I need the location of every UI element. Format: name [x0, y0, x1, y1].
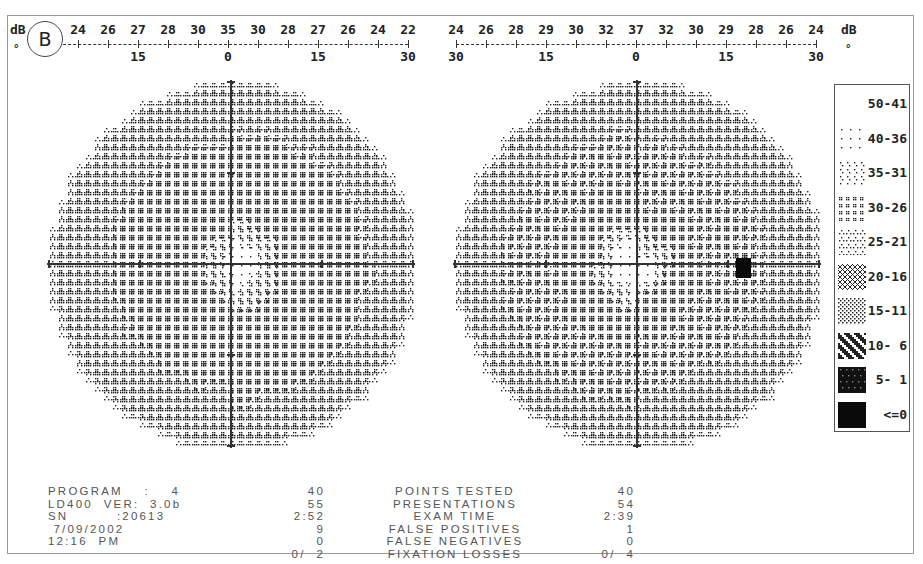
- legend-item: 5- 1: [835, 363, 911, 397]
- left-db-tick-label: 24: [370, 22, 386, 37]
- right-scale-tick: [576, 40, 577, 48]
- right-degree-tick-label: 15: [538, 49, 554, 64]
- left-scale-tick: [198, 40, 199, 48]
- left-db-unit: dB: [10, 22, 26, 37]
- right-visual-field-plot: [437, 64, 837, 464]
- right-db-tick-label: 24: [448, 22, 464, 37]
- right-db-tick-label: 37: [628, 22, 644, 37]
- legend-swatch-near-black: [838, 367, 866, 393]
- right-db-tick-label: 26: [478, 22, 494, 37]
- legend-label: 5- 1: [876, 372, 907, 387]
- left-db-tick-label: 24: [70, 22, 86, 37]
- left-db-tick-label: 27: [310, 22, 326, 37]
- legend-item: 20-16: [835, 260, 911, 294]
- stats-line: PROGRAM : 4: [48, 485, 181, 498]
- legend-swatch-double-dots: [838, 195, 866, 221]
- right-scale-tick: [696, 40, 697, 48]
- legend-label: 20-16: [868, 269, 907, 284]
- legend-swatch-blank: [838, 91, 866, 117]
- legend-item: 15-11: [835, 294, 911, 328]
- right-scale-tick: [816, 40, 817, 48]
- left-db-tick-label: 35: [220, 22, 236, 37]
- right-db-tick-label: 30: [688, 22, 704, 37]
- stats-line: 0: [250, 535, 325, 548]
- left-db-tick-label: 28: [280, 22, 296, 37]
- left-degree-tick-label: 30: [400, 49, 416, 64]
- left-scale-tick: [78, 40, 79, 48]
- legend-label: 30-26: [868, 200, 907, 215]
- stats-line: 2:52: [250, 510, 325, 523]
- left-db-tick-label: 28: [160, 22, 176, 37]
- left-db-tick-label: 27: [130, 22, 146, 37]
- left-scale-tick: [348, 40, 349, 48]
- stats-line: EXAM TIME: [340, 510, 570, 523]
- right-scale-tick: [666, 40, 667, 48]
- stats-line: 0/ 4: [560, 548, 635, 561]
- left-degree-tick-label: 15: [310, 49, 326, 64]
- legend-label: 15-11: [868, 303, 907, 318]
- legend-label: 10- 6: [868, 338, 907, 353]
- right-db-tick-label: 26: [778, 22, 794, 37]
- legend-label: 25-21: [868, 234, 907, 249]
- legend-swatch-light-dots: [838, 160, 866, 186]
- right-scale-tick: [546, 40, 547, 48]
- stats-line: FIXATION LOSSES: [340, 548, 570, 561]
- right-degree-tick-label: 15: [718, 49, 734, 64]
- right-degree-unit: °: [845, 42, 852, 55]
- right-db-tick-label: 29: [718, 22, 734, 37]
- legend-swatch-dark-mottled: [838, 333, 866, 359]
- test-info-block: PROGRAM : 4LD400 VER: 3.0bSN :20613 7/09…: [48, 485, 181, 560]
- legend-swatch-dense-gray: [838, 298, 866, 324]
- right-degree-tick-label: 30: [808, 49, 824, 64]
- legend-label: 50-41: [868, 96, 907, 111]
- right-scale-tick: [726, 40, 727, 48]
- left-eye-values: 40552:52900/ 2: [250, 485, 325, 560]
- right-db-unit: dB: [841, 22, 857, 37]
- stats-line: 0/ 2: [250, 548, 325, 561]
- left-scale-tick: [228, 40, 229, 48]
- left-db-tick-label: 30: [250, 22, 266, 37]
- right-db-tick-label: 30: [568, 22, 584, 37]
- stats-line: 55: [250, 498, 325, 511]
- legend-swatch-triangles: [838, 229, 866, 255]
- right-scale-tick: [516, 40, 517, 48]
- right-db-tick-label: 32: [598, 22, 614, 37]
- stats-line: 0: [560, 535, 635, 548]
- left-db-tick-label: 22: [400, 22, 416, 37]
- left-scale-tick: [138, 40, 139, 48]
- stats-line: 1: [560, 523, 635, 536]
- legend-item: 40-36: [835, 122, 911, 156]
- left-db-tick-label: 30: [190, 22, 206, 37]
- stats-line: 12:16 PM: [48, 535, 181, 548]
- right-db-tick-label: 32: [658, 22, 674, 37]
- stats-line: 9: [250, 523, 325, 536]
- right-scale-tick: [756, 40, 757, 48]
- right-scale-tick: [486, 40, 487, 48]
- stats-line: 2:39: [560, 510, 635, 523]
- stats-line: POINTS TESTED: [340, 485, 570, 498]
- legend-item: 10- 6: [835, 329, 911, 363]
- right-db-tick-label: 29: [538, 22, 554, 37]
- stats-line: PRESENTATIONS: [340, 498, 570, 511]
- right-scale-tick: [456, 40, 457, 48]
- right-degree-tick-label: 30: [448, 49, 464, 64]
- right-db-tick-label: 28: [748, 22, 764, 37]
- left-degree-tick-label: 15: [130, 49, 146, 64]
- grayscale-legend: 50-4140-3635-3130-2625-2120-1615-1110- 6…: [834, 84, 910, 432]
- legend-item: 25-21: [835, 225, 911, 259]
- legend-swatch-solid-black: [838, 402, 866, 428]
- left-scale-tick: [258, 40, 259, 48]
- left-scale-tick: [288, 40, 289, 48]
- left-scale-tick: [408, 40, 409, 48]
- left-db-tick-label: 26: [100, 22, 116, 37]
- stats-line: 54: [560, 498, 635, 511]
- right-scale-tick: [636, 40, 637, 48]
- right-degree-tick-label: 0: [632, 49, 640, 64]
- legend-label: 35-31: [868, 165, 907, 180]
- stats-line: FALSE POSITIVES: [340, 523, 570, 536]
- eye-badge: B: [27, 21, 63, 57]
- legend-label: <=0: [884, 407, 907, 422]
- legend-item: 50-41: [835, 87, 911, 121]
- right-db-tick-label: 28: [508, 22, 524, 37]
- left-scale-tick: [378, 40, 379, 48]
